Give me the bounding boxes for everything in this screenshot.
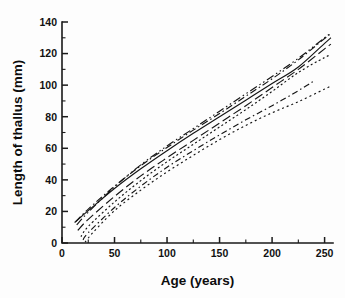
y-tick-label: 140 xyxy=(39,16,57,28)
y-tick-label: 80 xyxy=(45,111,57,123)
curve-curve-1-solid xyxy=(75,38,331,223)
y-tick-label: 100 xyxy=(39,79,57,91)
x-tick-label: 250 xyxy=(316,247,334,259)
axis-frame xyxy=(62,22,333,243)
x-axis-ticks: 050100150200250 xyxy=(59,237,333,259)
axis-lines xyxy=(62,22,333,243)
curve-curve-7-dotted-lowest xyxy=(85,86,331,242)
curves-group xyxy=(75,33,331,242)
axis-titles: Age (years)Length of thallus (mm) xyxy=(10,60,234,288)
curve-curve-5-dotted-upper xyxy=(81,55,331,237)
x-axis-title: Age (years) xyxy=(161,273,235,288)
x-tick-label: 50 xyxy=(109,247,121,259)
y-tick-label: 120 xyxy=(39,47,57,59)
x-tick-label: 200 xyxy=(263,247,281,259)
x-tick-label: 0 xyxy=(59,247,65,259)
y-tick-label: 60 xyxy=(45,142,57,154)
y-tick-label: 40 xyxy=(45,174,57,186)
chart-figure: 050100150200250020406080100120140Age (ye… xyxy=(0,0,345,298)
growth-curves-chart: 050100150200250020406080100120140Age (ye… xyxy=(0,0,345,298)
y-axis-title: Length of thallus (mm) xyxy=(10,60,25,206)
curve-curve-6-dash-dot-lower xyxy=(83,81,314,240)
y-tick-label: 20 xyxy=(45,205,57,217)
x-tick-label: 100 xyxy=(158,247,176,259)
curve-curve-3-dash-dot-dot xyxy=(77,33,331,225)
x-tick-label: 150 xyxy=(211,247,229,259)
y-axis-ticks: 020406080100120140 xyxy=(39,16,68,249)
y-tick-label: 0 xyxy=(51,237,57,249)
